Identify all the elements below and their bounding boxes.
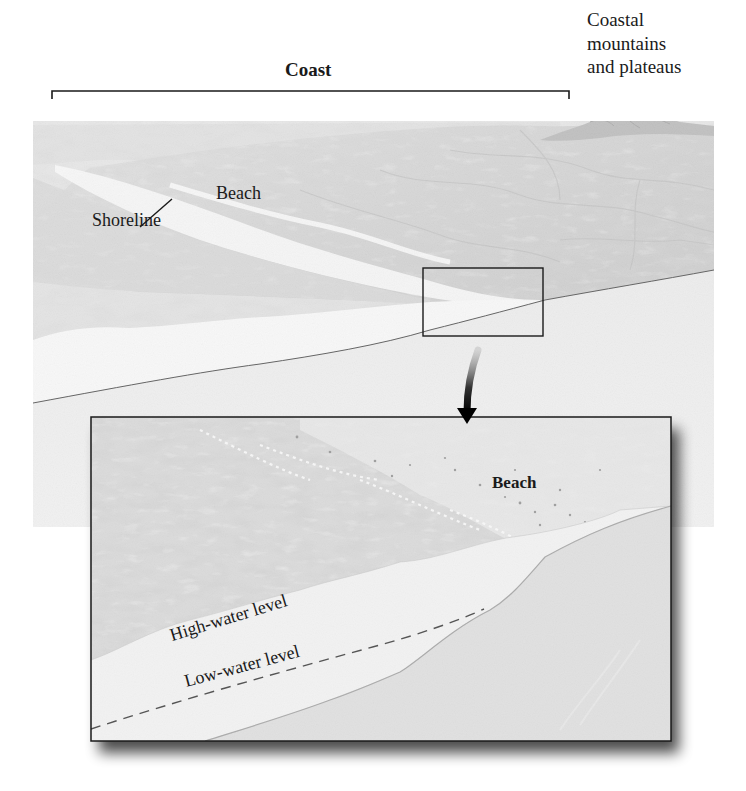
coast-bracket [52,91,569,99]
coastal-mountains-line-3: and plateaus [587,55,737,79]
beach-label-inset: Beach [492,474,536,491]
inset-scene [91,417,671,741]
shoreline-label: Shoreline [92,211,161,229]
beach-label-main: Beach [216,184,261,202]
coast-label: Coast [285,60,331,79]
coastal-mountains-label: Coastal mountains and plateaus [587,8,737,79]
coastal-mountains-line-2: mountains [587,32,737,56]
coast-panorama-illustration [0,0,746,791]
coastal-mountains-line-1: Coastal [587,8,737,32]
